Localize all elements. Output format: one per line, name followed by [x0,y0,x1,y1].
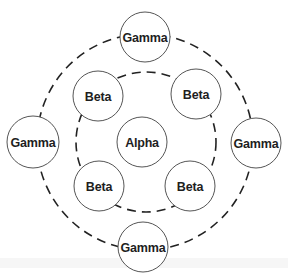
node-beta-4-label: Beta [177,180,205,194]
node-beta-1: Beta [73,71,123,121]
nodes-layer: AlphaBetaBetaBetaBetaGammaGammaGammaGamm… [7,12,281,272]
node-gamma-1-label: Gamma [123,31,169,45]
node-beta-3: Beta [74,161,124,211]
node-alpha: Alpha [117,117,167,167]
node-gamma-3: Gamma [231,118,281,168]
node-gamma-2: Gamma [7,116,59,168]
node-beta-2: Beta [171,69,221,119]
node-beta-3-label: Beta [86,180,114,194]
node-beta-4: Beta [165,161,215,211]
node-gamma-4: Gamma [118,222,168,272]
node-alpha-label: Alpha [125,136,160,150]
node-gamma-3-label: Gamma [234,137,280,151]
node-gamma-2-label: Gamma [11,136,57,150]
node-gamma-4-label: Gamma [121,241,167,255]
node-beta-2-label: Beta [183,88,211,102]
node-beta-1-label: Beta [85,90,113,104]
concentric-diagram: AlphaBetaBetaBetaBetaGammaGammaGammaGamm… [0,0,288,279]
node-gamma-1: Gamma [120,12,170,62]
